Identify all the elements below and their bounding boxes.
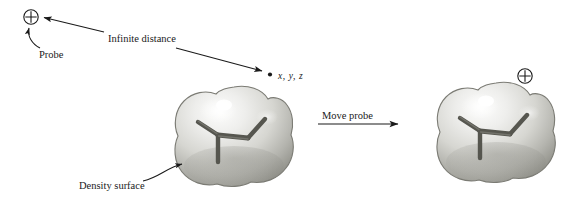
coordinate-point-marker	[268, 72, 272, 76]
density-surface-label: Density surface	[79, 180, 145, 191]
right-panel	[437, 69, 555, 183]
figure-vector-layer	[0, 0, 566, 209]
density-surface-left	[175, 86, 293, 186]
probe-leader-arrow	[29, 28, 40, 48]
probe-label: Probe	[39, 49, 64, 60]
electrostatic-potential-figure: Infinite distance Probe Density surface …	[0, 0, 566, 209]
density-surface-right	[437, 82, 555, 182]
probe-icon-left	[24, 10, 38, 24]
infinite-distance-label: Infinite distance	[108, 33, 176, 44]
move-probe-label: Move probe	[322, 110, 373, 121]
infinite-distance-arrow	[44, 18, 262, 72]
probe-icon-right	[518, 69, 532, 83]
density-surface-leader-arrow	[143, 164, 182, 181]
coordinate-label: x, y, z	[278, 71, 303, 81]
